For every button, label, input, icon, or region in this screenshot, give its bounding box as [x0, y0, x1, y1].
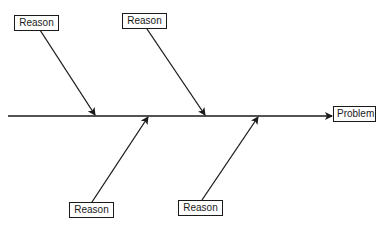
bone-top-right-arrow — [147, 29, 205, 115]
cause-label: Reason — [127, 15, 161, 26]
bone-top-left-arrow — [40, 30, 95, 115]
cause-label: Reason — [19, 17, 53, 28]
effect-label: Problem — [337, 108, 374, 119]
effect-box-problem: Problem — [333, 106, 376, 122]
fishbone-lines — [0, 0, 387, 225]
cause-box-bottom-right: Reason — [178, 200, 223, 216]
cause-box-top-left: Reason — [14, 15, 59, 31]
cause-box-top-right: Reason — [122, 13, 167, 29]
cause-label: Reason — [183, 202, 217, 213]
cause-label: Reason — [74, 204, 108, 215]
bone-bottom-right-arrow — [202, 117, 258, 200]
cause-box-bottom-left: Reason — [69, 202, 114, 218]
bone-bottom-left-arrow — [92, 117, 148, 202]
